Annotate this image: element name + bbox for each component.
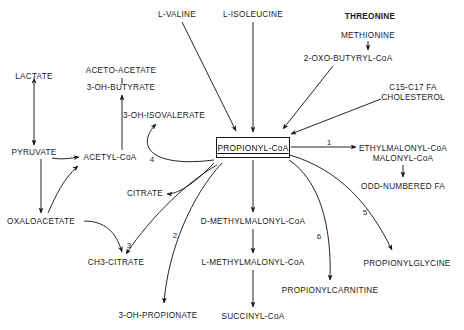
pathway-edges	[0, 0, 464, 330]
enzyme-label-1: 1	[327, 138, 331, 147]
node-label: LACTATE	[15, 72, 52, 81]
edge-oxaloacetate-to-acetylcoa	[48, 166, 78, 213]
node-label: CHOLESTEROL	[381, 93, 445, 102]
node-oxaloacetate[interactable]: OXALOACETATE	[7, 216, 75, 227]
node-label: L-METHYLMALONYL-CoA	[201, 258, 304, 267]
node-label: L-VALINE	[158, 10, 196, 19]
node-propionyl-coa[interactable]: PROPIONYL-CoA	[216, 137, 290, 158]
node-propionylcarnitine[interactable]: PROPIONYLCARNITINE	[282, 285, 378, 296]
node-l-methylmalonyl-coa[interactable]: L-METHYLMALONYL-CoA	[201, 257, 304, 268]
node-ch3-citrate[interactable]: CH3-CITRATE	[88, 257, 144, 268]
node-l-isoleucine[interactable]: L-ISOLEUCINE	[223, 9, 283, 20]
pathway-diagram: PROPIONYL-CoA L-VALINE L-ISOLEUCINE THRE…	[0, 0, 464, 330]
edge-4-to-3ohisovalerate	[147, 124, 214, 162]
node-acetyl-coa[interactable]: ACETYL-CoA	[83, 152, 136, 163]
node-propionylglycine[interactable]: PROPIONYLGLYCINE	[363, 258, 450, 269]
node-label: THREONINE	[345, 12, 395, 21]
edge-4-to-citrate	[167, 163, 214, 194]
enzyme-label-text: 6	[317, 232, 321, 241]
node-label: ACETO-ACETATE	[86, 66, 157, 75]
node-label: SUCCINYL-CoA	[221, 312, 284, 321]
node-label: L-ISOLEUCINE	[223, 10, 283, 19]
node-label: 3-OH-PROPIONATE	[118, 311, 197, 320]
node-2-oxo-butyryl-coa[interactable]: 2-OXO-BUTYRYL-CoA	[304, 53, 393, 64]
node-label: PROPIONYLCARNITINE	[282, 286, 378, 295]
enzyme-label-text: 3	[127, 241, 131, 250]
node-pyruvate[interactable]: PYRUVATE	[12, 147, 57, 158]
enzyme-label-text: 2	[173, 231, 177, 240]
node-lactate[interactable]: LACTATE	[15, 71, 52, 82]
node-3-oh-propionate[interactable]: 3-OH-PROPIONATE	[118, 310, 197, 321]
enzyme-label-text: 1	[327, 138, 331, 147]
node-label: C15-C17 FA	[389, 83, 437, 92]
node-label: ODD-NUMBERED FA	[361, 182, 445, 191]
node-l-valine[interactable]: L-VALINE	[158, 9, 196, 20]
node-label: ETHYLMALONYL-CoA	[359, 144, 447, 153]
node-label: D-METHYLMALONYL-CoA	[201, 217, 305, 226]
node-aceto-acetate[interactable]: ACETO-ACETATE	[86, 65, 157, 76]
edge-3-long-curve	[126, 165, 217, 254]
node-label: METHIONINE	[341, 31, 395, 40]
node-label: MALONYL-CoA	[373, 154, 434, 163]
node-label: CH3-CITRATE	[88, 258, 144, 267]
node-threonine[interactable]: THREONINE	[345, 11, 395, 22]
enzyme-label-4: 4	[150, 155, 154, 164]
node-succinyl-coa[interactable]: SUCCINYL-CoA	[221, 311, 284, 322]
edge-fa-chol-to-propionyl	[291, 99, 381, 134]
node-3-oh-butyrate[interactable]: 3-OH-BUTYRATE	[87, 82, 156, 93]
node-label: CITRATE	[127, 189, 163, 198]
edge-3-to-ch3citrate	[84, 221, 122, 252]
enzyme-label-text: 5	[363, 208, 367, 217]
node-label: 3-OH-ISOVALERATE	[123, 111, 205, 120]
enzyme-label-3: 3	[127, 241, 131, 250]
enzyme-label-6: 6	[317, 232, 321, 241]
enzyme-label-5: 5	[363, 208, 367, 217]
node-cholesterol[interactable]: CHOLESTEROL	[381, 92, 445, 103]
enzyme-label-text: 4	[150, 155, 154, 164]
node-3-oh-isovalerate[interactable]: 3-OH-ISOVALERATE	[123, 110, 205, 121]
node-label: ACETYL-CoA	[83, 153, 136, 162]
node-d-methylmalonyl-coa[interactable]: D-METHYLMALONYL-CoA	[201, 216, 305, 227]
node-malonyl-coa[interactable]: MALONYL-CoA	[373, 153, 434, 164]
node-citrate[interactable]: CITRATE	[127, 188, 163, 199]
node-methionine[interactable]: METHIONINE	[341, 30, 395, 41]
node-odd-numbered-fa[interactable]: ODD-NUMBERED FA	[361, 181, 445, 192]
node-label: PYRUVATE	[12, 148, 57, 157]
edge-oxobutyryl-to-propionyl	[283, 66, 333, 129]
edge-5-to-propionylglycine	[290, 155, 392, 250]
node-label: 3-OH-BUTYRATE	[87, 83, 156, 92]
enzyme-label-2: 2	[173, 231, 177, 240]
node-label: PROPIONYLGLYCINE	[363, 259, 450, 268]
node-label-propionyl-coa: PROPIONYL-CoA	[217, 143, 288, 153]
node-label: 2-OXO-BUTYRYL-CoA	[304, 54, 393, 63]
node-label: OXALOACETATE	[7, 217, 75, 226]
